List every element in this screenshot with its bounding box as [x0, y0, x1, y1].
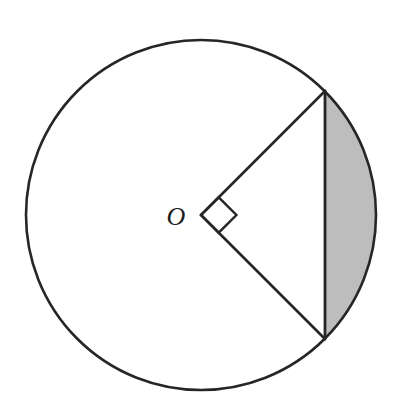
center-point-label: O: [167, 202, 186, 231]
geometry-canvas: O: [0, 0, 401, 417]
geometry-figure: O: [0, 0, 401, 417]
